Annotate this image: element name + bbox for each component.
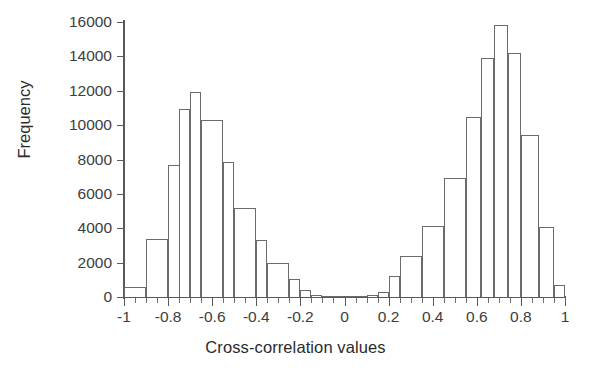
x-axis-minor-tick <box>499 298 500 303</box>
y-axis-tick-label: 6000 <box>78 186 112 202</box>
histogram-bar <box>521 135 539 297</box>
histogram-figure: 0200040006000800010000120001400016000 -1… <box>0 0 591 371</box>
x-axis-minor-tick <box>245 298 246 303</box>
y-axis-tick-label: 14000 <box>69 48 112 64</box>
histogram-bar <box>223 162 234 297</box>
histogram-bar <box>422 226 444 297</box>
x-axis-minor-tick <box>532 298 533 303</box>
y-axis-tick <box>117 297 124 298</box>
x-axis-tick-label: -0.2 <box>287 309 314 325</box>
y-axis-tick-label: 4000 <box>78 220 112 236</box>
x-axis-minor-tick <box>146 298 147 303</box>
histogram-bar <box>179 109 190 297</box>
x-axis-minor-tick <box>201 298 202 303</box>
y-axis-tick-label: 2000 <box>78 255 112 271</box>
y-axis-title: Frequency <box>15 60 34 180</box>
histogram-bar <box>333 296 344 298</box>
y-axis-tick <box>117 56 124 57</box>
x-axis-tick-label: -0.6 <box>199 309 226 325</box>
x-axis-minor-tick <box>135 298 136 303</box>
x-axis-tick-label: 0 <box>340 309 349 325</box>
histogram-bar <box>400 256 422 297</box>
histogram-bar <box>539 227 554 297</box>
x-axis-major-tick <box>345 298 346 306</box>
x-axis-major-tick <box>477 298 478 306</box>
y-axis-tick <box>117 228 124 229</box>
x-axis-major-tick <box>124 298 125 306</box>
x-axis-tick-label: -0.8 <box>155 309 182 325</box>
x-axis-minor-tick <box>488 298 489 303</box>
y-axis-tick-label: 12000 <box>69 83 112 99</box>
x-axis-tick-label: -1 <box>117 309 131 325</box>
x-axis-major-tick <box>565 298 566 306</box>
histogram-bar <box>201 120 223 297</box>
histogram-bar <box>256 240 267 297</box>
y-axis-tick <box>117 22 124 23</box>
x-axis-minor-tick <box>378 298 379 303</box>
x-axis-minor-tick <box>466 298 467 303</box>
y-axis-tick <box>117 194 124 195</box>
x-axis-minor-tick <box>455 298 456 303</box>
histogram-bar <box>481 58 494 297</box>
x-axis-minor-tick <box>190 298 191 303</box>
x-axis-minor-tick <box>322 298 323 303</box>
x-axis-tick-label: 0.6 <box>466 309 488 325</box>
histogram-bar <box>345 296 356 298</box>
x-axis-tick-label: 0.4 <box>422 309 444 325</box>
x-axis-tick-label: 0.2 <box>378 309 400 325</box>
x-axis-minor-tick <box>510 298 511 303</box>
histogram-bar <box>356 296 367 298</box>
x-axis-minor-tick <box>444 298 445 303</box>
histogram-bar <box>389 276 400 297</box>
y-axis-tick-label: 0 <box>103 289 112 305</box>
x-axis-major-tick <box>256 298 257 306</box>
y-axis-tick <box>117 125 124 126</box>
histogram-bar <box>466 117 481 297</box>
histogram-bar <box>289 279 300 297</box>
x-axis-minor-tick <box>311 298 312 303</box>
y-axis-tick-labels: 0200040006000800010000120001400016000 <box>0 0 112 371</box>
y-axis-tick <box>117 263 124 264</box>
x-axis-major-tick <box>300 298 301 306</box>
histogram-bar <box>311 295 322 297</box>
x-axis-minor-tick <box>400 298 401 303</box>
y-axis-tick-label: 10000 <box>69 117 112 133</box>
histogram-bar <box>234 208 256 297</box>
x-axis-minor-tick <box>157 298 158 303</box>
x-axis-minor-tick <box>356 298 357 303</box>
histogram-bar <box>508 53 521 297</box>
x-axis-minor-tick <box>267 298 268 303</box>
x-axis-minor-tick <box>554 298 555 303</box>
x-axis-title: Cross-correlation values <box>0 338 591 357</box>
y-axis-tick <box>117 160 124 161</box>
x-axis-major-tick <box>212 298 213 306</box>
histogram-bar <box>378 292 389 297</box>
x-axis-minor-tick <box>289 298 290 303</box>
x-axis-major-tick <box>168 298 169 306</box>
x-axis-tick-label: 0.8 <box>510 309 532 325</box>
x-axis-major-tick <box>389 298 390 306</box>
y-axis-tick-label: 16000 <box>69 14 112 30</box>
x-axis-tick-label: 1 <box>561 309 570 325</box>
x-axis-minor-tick <box>179 298 180 303</box>
x-axis-minor-tick <box>367 298 368 303</box>
x-axis-minor-tick <box>234 298 235 303</box>
histogram-bar <box>124 287 146 297</box>
x-axis-minor-tick <box>223 298 224 303</box>
histogram-bar <box>146 239 168 297</box>
x-axis-major-tick <box>433 298 434 306</box>
histogram-bar <box>494 25 507 297</box>
histogram-bar <box>367 295 378 297</box>
histogram-bar <box>322 296 333 298</box>
histogram-bar <box>267 263 289 297</box>
x-axis-minor-tick <box>411 298 412 303</box>
x-axis-minor-tick <box>333 298 334 303</box>
x-axis-minor-tick <box>422 298 423 303</box>
x-axis-minor-tick <box>543 298 544 303</box>
histogram-bar <box>190 92 201 297</box>
x-axis-tick-label: -0.4 <box>243 309 270 325</box>
y-axis-tick <box>117 91 124 92</box>
y-axis-tick-label: 8000 <box>78 152 112 168</box>
plot-area <box>124 22 565 297</box>
histogram-bar <box>444 178 466 297</box>
